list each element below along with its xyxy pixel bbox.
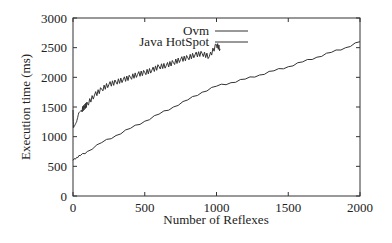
legend: OvmJava HotSpot: [139, 23, 248, 49]
series-lines: [73, 42, 360, 161]
y-tick-label: 2000: [41, 70, 67, 85]
legend-label: Java HotSpot: [139, 34, 209, 49]
y-axis-label: Execution time (ms): [18, 54, 33, 160]
x-tick-label: 1500: [275, 200, 301, 215]
line-chart: 0500100015002000250030000500100015002000…: [0, 0, 392, 243]
y-tick-label: 1500: [41, 100, 67, 115]
x-tick-label: 2000: [347, 200, 373, 215]
y-tick-label: 0: [61, 189, 68, 204]
y-tick-label: 2500: [41, 40, 67, 55]
x-tick-label: 500: [135, 200, 155, 215]
y-tick-label: 500: [48, 159, 68, 174]
y-tick-label: 3000: [41, 11, 67, 26]
series-line-ovm: [73, 42, 360, 161]
x-axis-label: Number of Reflexes: [163, 212, 268, 227]
series-line-java-hotspot: [73, 44, 220, 128]
x-tick-label: 0: [70, 200, 77, 215]
y-tick-label: 1000: [41, 129, 67, 144]
